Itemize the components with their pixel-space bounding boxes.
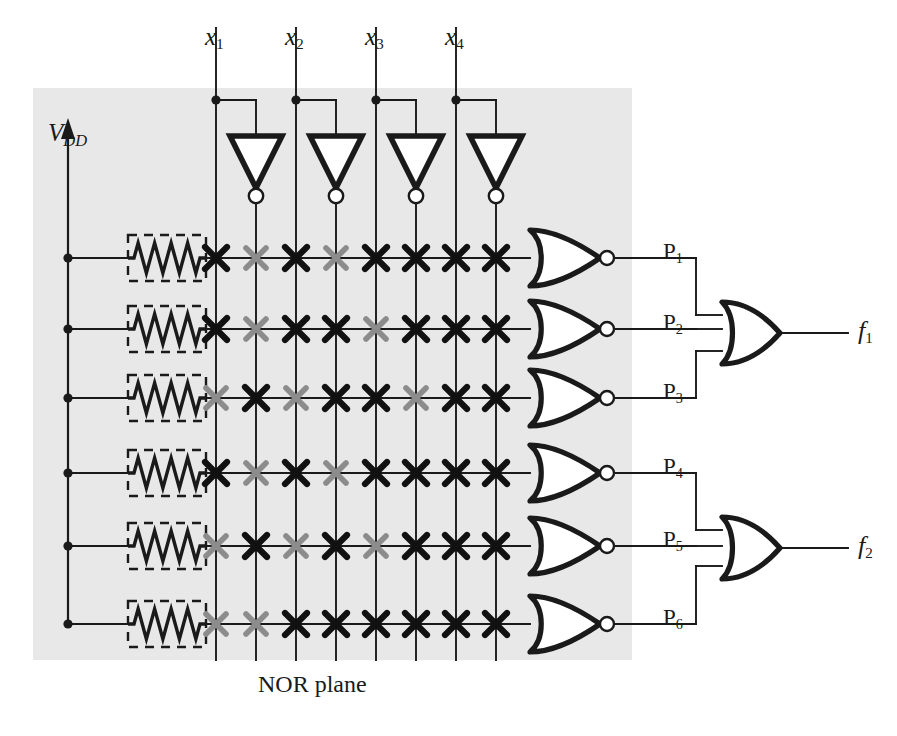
inverter-bubble-icon-4 [489,189,503,203]
product-label-p1: P1 [663,240,683,265]
pla-diagram: x1 x2 x3 x4 VDD P1 P2 P3 P4 P5 P6 f1 f2 … [0,0,897,736]
nor-gate-bubble-icon-P1 [600,251,614,265]
input-label-x1: x1 [205,24,224,52]
or-gate-f2 [722,517,780,579]
product-label-p3: P3 [663,380,683,405]
or-gate-f1 [722,302,780,364]
nor-gate-bubble-icon-P3 [600,391,614,405]
nor-plane-label: NOR plane [258,672,367,696]
output-label-f1: f1 [858,318,873,346]
input-label-x3: x3 [365,24,384,52]
nor-gate-bubble-icon-P2 [600,322,614,336]
junction-dot-x4 [451,95,460,104]
junction-dot-x1 [211,95,220,104]
nor-gate-bubble-icon-P6 [600,617,614,631]
product-label-p2: P2 [663,311,683,336]
nor-gate-bubble-icon-P4 [600,466,614,480]
junction-dot-x2 [291,95,300,104]
product-label-p5: P5 [663,528,683,553]
circuit-canvas [0,0,897,736]
inverter-bubble-icon-3 [409,189,423,203]
inverter-bubble-icon-1 [249,189,263,203]
product-label-p6: P6 [663,606,683,631]
inverter-bubble-icon-2 [329,189,343,203]
product-label-p4: P4 [663,455,683,480]
vdd-label: VDD [48,120,87,149]
input-label-x4: x4 [445,24,464,52]
junction-dot-x3 [371,95,380,104]
nor-gate-bubble-icon-P5 [600,539,614,553]
input-label-x2: x2 [285,24,304,52]
output-label-f2: f2 [858,533,873,561]
